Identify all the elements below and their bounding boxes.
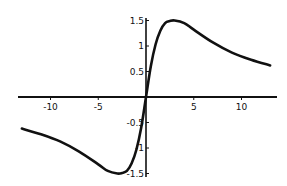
y-tick-label: 1.5	[130, 16, 144, 26]
y-tick-label: 0.5	[130, 67, 144, 77]
axes	[18, 18, 277, 177]
x-tick-label: -5	[94, 102, 103, 112]
y-tick-label: 1	[138, 41, 144, 51]
x-tick-label: 10	[236, 102, 248, 112]
x-tick-label: 5	[191, 102, 197, 112]
chart: -10-5510 1.510.5-0.5-1-1.5	[0, 0, 287, 186]
x-tick-label: -10	[43, 102, 58, 112]
